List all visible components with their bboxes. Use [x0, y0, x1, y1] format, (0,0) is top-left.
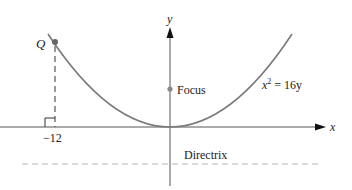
right-angle-marker [45, 118, 55, 127]
point-q-label: Q [36, 37, 45, 50]
focus-point [167, 86, 172, 91]
focus-label: Focus [177, 84, 206, 96]
equation-rhs: = 16y [271, 78, 302, 92]
directrix-label: Directrix [184, 149, 227, 161]
parabola-diagram [0, 0, 352, 190]
tick-label-neg12: −12 [43, 132, 62, 144]
y-axis-arrow-icon [167, 27, 174, 38]
y-axis-label: y [167, 13, 172, 25]
point-q [52, 39, 58, 45]
x-axis-label: x [330, 121, 335, 133]
equation-label: x2 = 16y [262, 78, 302, 91]
x-axis-arrow-icon [315, 124, 326, 131]
